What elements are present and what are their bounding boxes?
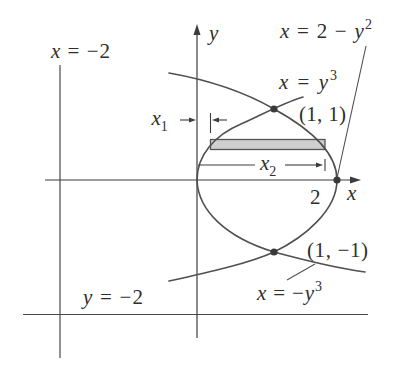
x-axis-label: x	[346, 181, 357, 205]
approximating-strip	[211, 140, 326, 150]
label-var: x	[279, 19, 290, 43]
y-axis-label: y	[207, 21, 219, 45]
label-var: y	[81, 285, 93, 309]
label-var: x	[278, 70, 289, 94]
label-rest: = −2	[94, 285, 143, 309]
region-diagram: x = −2 y x = 2 − y2 x = y3 (1, 1) x1 x2 …	[0, 0, 397, 371]
label-x2: x2	[259, 151, 276, 179]
point-2-0	[333, 176, 340, 183]
point-1-1	[270, 105, 277, 112]
label-var: y	[303, 281, 315, 305]
label-var: y	[352, 19, 364, 43]
label-point-upper: (1, 1)	[299, 102, 346, 126]
label-subscript: 1	[161, 119, 168, 134]
label-rest: = −2	[61, 39, 110, 63]
label-exponent: 3	[315, 279, 322, 294]
label-point-lower: (1, −1)	[307, 238, 368, 262]
arrow-right-icon	[316, 163, 323, 168]
label-var: y	[317, 70, 329, 94]
label-subscript: 2	[269, 164, 276, 179]
label-rest: = −	[267, 281, 304, 305]
label-exponent: 3	[330, 68, 337, 83]
label-rest: =	[290, 70, 316, 94]
label-parabola-equation: x = 2 − y2	[279, 17, 372, 43]
point-1-neg1	[270, 248, 277, 255]
label-y-eq-neg2: y = −2	[81, 285, 143, 309]
label-cubic-lower-equation: x = −y3	[256, 279, 322, 305]
y-axis-arrow-icon	[194, 24, 201, 35]
curve-cubic-upper	[197, 97, 303, 180]
label-x-eq-neg2: x = −2	[50, 39, 110, 63]
label-x1: x1	[151, 106, 168, 134]
label-cubic-upper-equation: x = y3	[278, 68, 337, 94]
label-exponent: 2	[365, 17, 372, 32]
x-tick-label-2: 2	[310, 185, 321, 209]
leader-cubic-lower	[287, 264, 315, 280]
arrow-right-icon	[189, 118, 196, 123]
label-rest: = 2 −	[291, 19, 354, 43]
label-var: x	[256, 281, 267, 305]
arrow-left-icon	[212, 118, 219, 123]
label-var: x	[50, 39, 61, 63]
